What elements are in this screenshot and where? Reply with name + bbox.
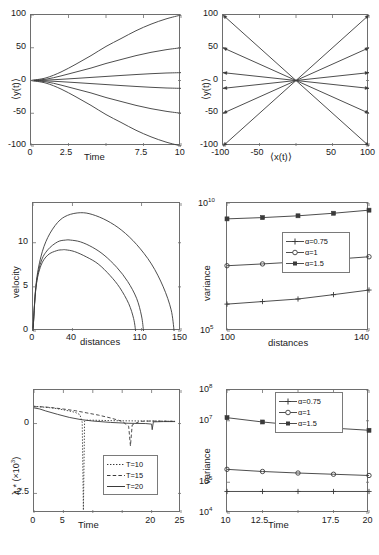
legend-e[interactable]: T=10T=15T=20 [103,455,158,495]
legend-item[interactable]: α=1 [278,407,340,418]
tick-label: 107 [199,413,212,425]
data-line-fan+3 [31,15,181,81]
tick-label: 100 [190,8,218,18]
legend-f[interactable]: α=0.75α=1α=1.5 [275,392,343,433]
tick-label: 20 [145,515,155,525]
legend-item[interactable]: T=20 [106,481,155,492]
panel-bottom-right: variance Time α=0.75α=1α=1.5 10810710510… [190,370,379,555]
tick-label: 10 [221,515,231,525]
axis-label-x-b: ⟨x(t)⟩ [270,151,292,162]
tick-label: -2.5 [0,486,29,496]
tick-label: 5 [60,515,65,525]
legend-label: α=1 [305,247,318,258]
tick-label: -50 [0,106,26,116]
legend-label: α=0.75 [305,236,328,247]
tick-label: 2.5 [60,147,73,157]
legend-line-dashed-icon [106,470,126,481]
panel-middle-right: variance distances α=0.75α=1α=1.5 101010… [190,185,379,370]
legend-label: T=10 [126,459,143,470]
legend-marker-circle-icon [285,247,305,258]
tick-label: 0 [0,417,29,427]
tick-label: 0 [30,515,35,525]
tick-label: 100 [360,147,375,157]
arrow-head [223,72,227,75]
data-ray-ray-11 [223,81,296,114]
tick-label: -50 [190,106,218,116]
axis-label-x-d: distances [268,337,308,348]
tick-label: 110 [132,332,146,342]
legend-d[interactable]: α=0.75α=1α=1.5 [282,232,350,273]
plot-lines-c [33,203,181,331]
tick-label: 50 [0,41,26,51]
legend-line-solid-icon [106,481,126,492]
tick-label: 0 [27,147,32,157]
legend-item[interactable]: α=0.75 [278,396,340,407]
legend-label: T=20 [126,481,143,492]
legend-item[interactable]: α=0.75 [285,236,347,247]
axis-label-x-a: Time [84,151,105,162]
data-line-fan-1 [31,81,181,89]
data-ray-ray-12 [223,81,296,147]
tick-label: 0 [0,74,26,84]
tick-label: 10 [0,236,28,246]
arrow-head [223,86,227,89]
figure-canvas: ⟨y(t)⟩ Time 100500-50-10002.57.510 ⟨y(t)… [0,0,379,555]
arrow-head [365,86,369,89]
arrow-head [365,48,369,51]
tick-label: 100 [0,8,26,18]
tick-label: 10 [175,147,185,157]
panel-top-left: ⟨y(t)⟩ Time 100500-50-10002.57.510 [0,0,190,185]
axis-label-x-c: distances [80,336,120,347]
data-line-curve-long [33,213,174,331]
tick-label: 20 [363,515,373,525]
data-ray-ray-10 [223,81,296,89]
arrow-head [223,110,227,113]
data-ray-ray-8 [223,48,296,81]
data-line-fan+1 [31,73,181,81]
legend-marker-circle-icon [278,407,298,418]
axis-label-x-f: Time [268,519,289,530]
plot-lines-a [31,15,181,146]
panel-bottom-left: λx* (×103) Time T=10T=15T=20 -2.50052025 [0,370,190,555]
tick-label: 100 [220,332,235,342]
legend-label: α=1 [298,407,311,418]
legend-marker-square-icon [285,258,305,269]
tick-label: -50 [250,147,263,157]
legend-marker-plus-icon [285,236,305,247]
legend-label: α=1.5 [305,258,324,269]
tick-label: 17.5 [322,515,340,525]
data-line-T=20 [34,408,175,430]
data-ray-ray-5 [296,81,369,114]
tick-label: 40 [66,332,76,342]
tick-label: 108 [199,382,212,394]
arrow-head [365,72,369,75]
legend-item[interactable]: α=1.5 [285,258,347,269]
tick-label: 12.5 [251,515,269,525]
tick-label: 105 [200,323,213,335]
tick-label: 150 [172,332,187,342]
legend-label: α=1.5 [298,418,317,429]
legend-item[interactable]: T=15 [106,470,155,481]
tick-label: -100 [0,139,26,149]
tick-label: 105 [199,474,212,486]
data-ray-ray-6 [296,81,369,147]
data-line-T=15 [34,407,175,446]
legend-item[interactable]: α=1.5 [278,418,340,429]
legend-item[interactable]: T=10 [106,459,155,470]
legend-marker-plus-icon [278,396,298,407]
tick-label: 140 [354,332,369,342]
plot-lines-b [223,15,369,146]
data-ray-ray-9 [223,73,296,81]
tick-label: 50 [326,147,336,157]
tick-label: 104 [199,505,212,517]
legend-marker-square-icon [278,418,298,429]
plot-area-b [222,14,368,145]
data-ray-ray-2 [296,48,369,81]
tick-label: 0 [29,332,34,342]
panel-middle-left: velocity distances 0510040110150 [0,185,190,370]
legend-item[interactable]: α=1 [285,247,347,258]
tick-label: 0 [0,324,28,334]
data-line-α=1 [227,469,369,475]
plot-area-a [30,14,180,145]
data-line-fan-3 [31,81,181,147]
